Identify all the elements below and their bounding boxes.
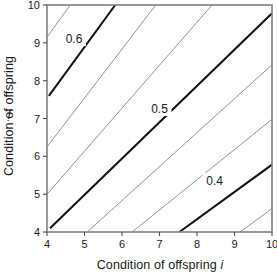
- x-tick-label: 6: [119, 238, 125, 250]
- y-tick-label: 5: [34, 188, 40, 200]
- x-tick-label: 5: [81, 238, 87, 250]
- y-tick-label: 10: [28, 0, 40, 11]
- contour-plot-figure: Condition of offspring j Condition of of…: [0, 0, 277, 275]
- x-tick-label: 8: [194, 238, 200, 250]
- x-tick-label: 4: [44, 238, 50, 250]
- y-tick-label: 9: [34, 37, 40, 49]
- x-tick-label: 7: [156, 238, 162, 250]
- x-tick-label: 9: [231, 238, 237, 250]
- x-tick-label: 10: [266, 238, 277, 250]
- y-tick-label: 8: [34, 75, 40, 87]
- contour-label: 0.5: [151, 102, 168, 116]
- y-tick-label: 7: [34, 113, 40, 125]
- contour-label: 0.4: [206, 174, 223, 188]
- y-tick-label: 4: [34, 226, 40, 238]
- x-axis-ticks: 45678910: [44, 232, 277, 250]
- y-axis-ticks: 45678910: [28, 0, 47, 238]
- contour-label: 0.6: [66, 32, 83, 46]
- plot-area: 45678910 45678910 0.60.50.4: [0, 0, 277, 275]
- y-tick-label: 6: [34, 150, 40, 162]
